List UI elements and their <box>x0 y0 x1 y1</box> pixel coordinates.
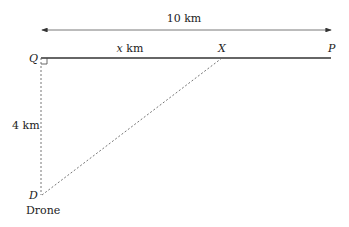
point-D-label: D <box>28 189 38 202</box>
point-P-label: P <box>327 42 336 55</box>
vertical-label: 4 km <box>12 119 40 132</box>
drone-diagram: 10 km Q X P D x km 4 km Drone <box>0 0 349 227</box>
distance-label: 10 km <box>167 12 202 25</box>
drone-label: Drone <box>26 204 60 217</box>
point-X-label: X <box>217 42 227 55</box>
right-angle-marker <box>41 58 47 64</box>
line-DX <box>42 58 222 195</box>
segment-QX-label: x km <box>117 42 144 55</box>
point-Q-label: Q <box>29 52 38 65</box>
